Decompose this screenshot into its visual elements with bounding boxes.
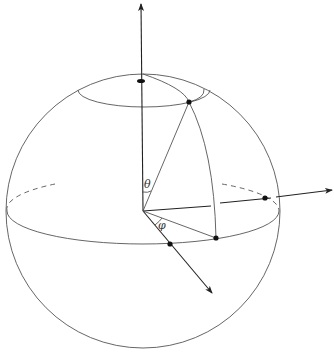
y-axis-inner <box>143 206 211 211</box>
y-axis-arrow <box>276 190 332 197</box>
phi-label: φ <box>158 219 166 232</box>
theta-arc <box>143 191 151 192</box>
theta-label: θ <box>144 178 151 191</box>
equator-back-left <box>7 184 55 211</box>
equator-back-right <box>222 184 279 211</box>
cap-pole-dot <box>137 79 145 83</box>
radius-vector <box>143 102 189 211</box>
equator-projection-dot <box>213 235 218 240</box>
spherical-coordinates-diagram: θ φ <box>0 0 334 353</box>
equator-front <box>7 211 279 244</box>
y-axis-intersection-dot <box>262 195 267 200</box>
meridian-arc <box>143 74 216 238</box>
x-axis-intersection-dot <box>167 241 172 246</box>
z-axis <box>141 4 143 211</box>
point-on-sphere-dot <box>186 99 191 104</box>
